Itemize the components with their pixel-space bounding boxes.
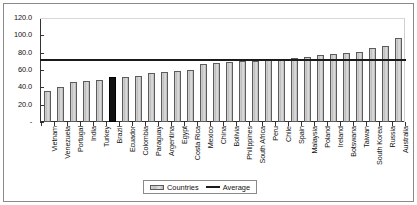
bar: [395, 38, 402, 122]
x-axis-tick-label: Poland: [324, 126, 331, 148]
y-axis-tick-label: 100.0: [14, 31, 32, 39]
bar: [226, 62, 233, 122]
bar: [109, 77, 116, 122]
x-axis-tick-label: Ecuador: [129, 126, 136, 152]
bar: [252, 61, 259, 122]
bar: [200, 64, 207, 122]
bar: [317, 55, 324, 122]
bar: [291, 58, 298, 122]
legend-item-average: Average: [206, 183, 250, 192]
x-axis-tick-label: Malaysia: [311, 126, 318, 154]
bar-swatch-icon: [150, 185, 164, 190]
bar: [330, 54, 337, 122]
x-axis-tick-label: Argentina: [168, 126, 175, 156]
x-axis-tick-label: Botswana: [350, 126, 357, 157]
x-axis-tick-label: Taiwan: [363, 126, 370, 148]
x-axis-tick-label: Spain: [298, 126, 305, 144]
y-axis-tick-label: 40.0: [18, 83, 32, 91]
bar: [174, 71, 181, 122]
y-axis-tick-label: 20.0: [18, 101, 32, 109]
bar: [135, 76, 142, 122]
x-axis-tick-label: Paraguay: [155, 126, 162, 156]
bar: [44, 91, 51, 122]
bar-series: [41, 18, 405, 122]
bar: [161, 72, 168, 122]
x-axis-tick-label: Philippines: [246, 126, 253, 160]
bar: [96, 80, 103, 122]
x-axis-tick-label: Costa Rica: [194, 126, 201, 160]
x-axis-tick-label: Bolivia: [233, 126, 240, 146]
legend-item-countries: Countries: [150, 183, 199, 192]
x-axis-tick-label: Colombia: [142, 126, 149, 156]
bar: [239, 61, 246, 122]
y-axis-tick-label: -: [30, 118, 32, 126]
y-axis-tick-label: 60.0: [18, 66, 32, 74]
x-axis-tick-label: Australia: [402, 126, 409, 153]
bar: [356, 52, 363, 122]
bar: [382, 46, 389, 122]
x-axis-tick-label: Peru: [272, 126, 279, 141]
x-axis-tick-label: Vietnam: [51, 126, 58, 152]
bar: [213, 63, 220, 122]
bar: [278, 59, 285, 122]
x-axis-tick-label: Portugal: [77, 126, 84, 152]
average-line: [40, 59, 406, 61]
x-axis-tick-label: Russia: [389, 126, 396, 147]
x-axis-tick-label: Ireland: [337, 126, 344, 147]
x-axis-tick-label: India: [90, 126, 97, 141]
x-axis-tick-label: Chile: [285, 126, 292, 142]
x-axis-tick-label: Egypt: [181, 126, 188, 144]
x-axis-tick-label: Turkey: [103, 126, 110, 147]
chart-container: 120.0100.080.060.040.020.0- VietnamVenez…: [0, 0, 417, 205]
y-axis: 120.0100.080.060.040.020.0-: [3, 12, 37, 128]
legend-label-average: Average: [223, 183, 250, 192]
x-axis-tick-label: China: [220, 126, 227, 144]
legend: Countries Average: [143, 180, 257, 194]
bar: [304, 57, 311, 122]
x-axis-tick-label: Brazil: [116, 126, 123, 143]
bar: [148, 73, 155, 122]
x-axis-tick-label: South Africa: [259, 126, 266, 164]
bar: [122, 77, 129, 122]
bar: [265, 60, 272, 122]
bar: [187, 70, 194, 122]
bar: [83, 81, 90, 122]
x-axis-tick-label: Mexico: [207, 126, 214, 148]
x-axis-tick-label: Venezuela: [64, 126, 71, 159]
y-axis-tick-label: 120.0: [14, 14, 32, 22]
bar: [57, 87, 64, 122]
bar: [70, 82, 77, 122]
y-axis-tick-label: 80.0: [18, 49, 32, 57]
line-swatch-icon: [206, 186, 220, 188]
legend-label-countries: Countries: [167, 183, 199, 192]
bar: [343, 53, 350, 122]
x-axis-tick-label: South Korea: [376, 126, 383, 165]
x-axis-labels: VietnamVenezuelaPortugalIndiaTurkeyBrazi…: [41, 126, 405, 174]
